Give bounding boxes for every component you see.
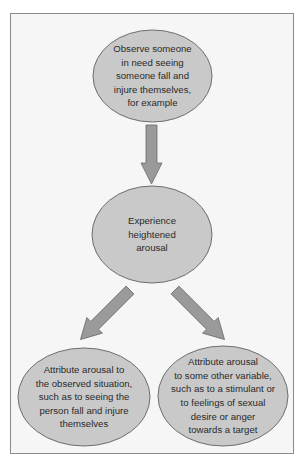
node-attribute-situation: Attribute arousal to the observed situat…	[18, 348, 150, 446]
node-arousal-label: Experience heightened arousal	[128, 214, 176, 255]
node-arousal: Experience heightened arousal	[92, 186, 212, 283]
node-attribute-other: Attribute arousal to some other variable…	[158, 346, 288, 446]
arrow-down-right-icon	[167, 282, 232, 347]
arrow-down-icon	[141, 125, 162, 184]
arrow-down-left-icon	[73, 282, 138, 347]
node-attribute-other-label: Attribute arousal to some other variable…	[171, 355, 275, 437]
node-observe-label: Observe someone in need seeing someone f…	[113, 42, 191, 110]
node-observe: Observe someone in need seeing someone f…	[93, 30, 212, 122]
node-attribute-situation-label: Attribute arousal to the observed situat…	[36, 363, 133, 431]
